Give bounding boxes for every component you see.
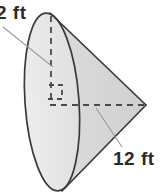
- height-label: 12 ft: [113, 148, 155, 170]
- radius-label: 2 ft: [0, 2, 27, 24]
- cone-diagram: 2 ft 12 ft: [0, 0, 167, 196]
